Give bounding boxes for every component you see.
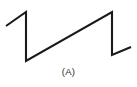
figure-caption: (A) [0, 66, 137, 78]
waveform-figure: (A) [0, 0, 137, 87]
sawtooth-wave-path [6, 12, 131, 61]
